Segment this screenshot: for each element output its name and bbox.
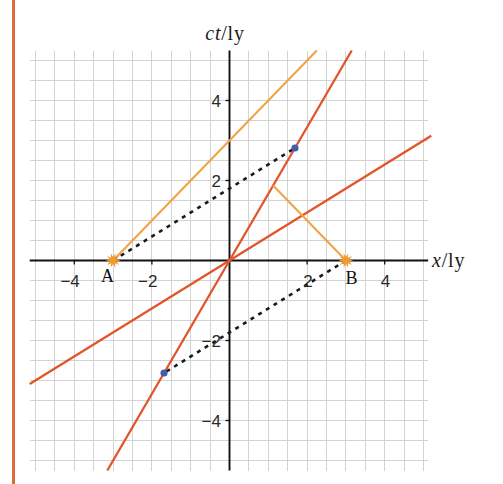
x-tick-label: 2 [303, 272, 312, 291]
spacetime-diagram: ct/ly x/ly −4−22442−2−4AB [0, 0, 503, 484]
y-tick-label: −4 [202, 412, 221, 431]
x-tick-label: 4 [381, 272, 390, 291]
y-tick-label: 4 [212, 92, 221, 111]
light-ray-a-line [113, 51, 317, 261]
event-label-b: B [345, 268, 357, 288]
x-axis-label: x/ly [431, 249, 465, 272]
x-tick-label: −4 [60, 272, 79, 291]
event-label-a: A [101, 266, 114, 286]
y-axis-label: ct/ly [205, 22, 245, 45]
y-tick-label: 2 [212, 172, 221, 191]
simultaneity-a-line [113, 148, 295, 261]
x-axis-label-unit: /ly [442, 249, 466, 272]
simultaneity-b-line [164, 261, 346, 374]
intersection-dot-icon [291, 144, 298, 151]
y-axis-label-variable: ct [205, 22, 221, 44]
intersection-dot-icon [160, 369, 167, 376]
x-tick-label: −2 [138, 272, 157, 291]
light-ray-b-line [273, 186, 346, 261]
y-axis-label-unit: /ly [221, 22, 245, 45]
x-axis-label-variable: x [431, 249, 442, 271]
y-tick-label: −2 [202, 332, 221, 351]
